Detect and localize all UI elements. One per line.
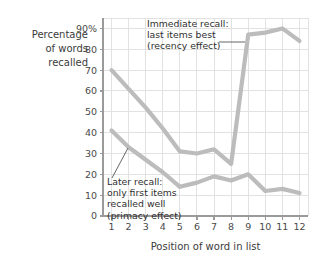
y-axis-tick-label: 60	[85, 85, 97, 96]
x-axis-tick-label: 2	[126, 221, 132, 232]
x-axis-tick-label: 8	[228, 221, 234, 232]
chart-canvas: 0102030405060708090% 123456789101112 Per…	[0, 0, 314, 263]
x-axis-tick-label: 5	[177, 221, 183, 232]
x-axis-tick-label: 1	[109, 221, 115, 232]
x-axis-tick-label: 6	[194, 221, 200, 232]
annotation-leader-line	[112, 148, 128, 178]
immediate-recall-annotation-line: last items best	[147, 29, 216, 40]
x-axis-title-label: Position of word in list	[151, 241, 261, 252]
data-series-lines	[112, 28, 300, 193]
serial-position-chart: 0102030405060708090% 123456789101112 Per…	[0, 0, 314, 263]
x-axis-tick-label: 4	[160, 221, 166, 232]
y-axis-title-line: Percentage	[32, 29, 88, 40]
y-axis-title-line: of words	[45, 43, 88, 54]
later-recall-annotation-line: (primacy effect)	[107, 210, 181, 221]
later-recall-annotation-line: only first items	[107, 187, 177, 198]
x-axis-tick-label: 12	[293, 221, 305, 232]
x-axis-tick-label: 11	[276, 221, 288, 232]
y-axis-tick-label: 50	[85, 106, 97, 117]
x-axis-tick-label: 10	[259, 221, 271, 232]
y-axis-tick-label: 10	[85, 190, 97, 201]
x-axis-title: Position of word in list	[151, 241, 261, 252]
x-axis-tick-label: 9	[245, 221, 251, 232]
x-axis-tick-label: 3	[143, 221, 149, 232]
y-axis-tick-label: 0	[91, 210, 97, 221]
chart-annotations: Immediate recall:last items best(recency…	[107, 18, 245, 221]
y-axis-tick-label: 20	[85, 169, 97, 180]
later-recall-annotation-line: recalled well	[107, 198, 165, 209]
y-axis-tick-label: 40	[85, 127, 97, 138]
immediate-recall-annotation-line: (recency effect)	[147, 40, 221, 51]
x-axis-tick-label: 7	[211, 221, 217, 232]
later-recall-annotation-line: Later recall:	[107, 176, 162, 187]
y-axis-title-line: recalled	[48, 57, 88, 68]
immediate-recall-annotation-line: Immediate recall:	[147, 18, 229, 29]
y-axis-tick-label: 30	[85, 148, 97, 159]
y-axis-title: Percentageof wordsrecalled	[32, 29, 88, 68]
